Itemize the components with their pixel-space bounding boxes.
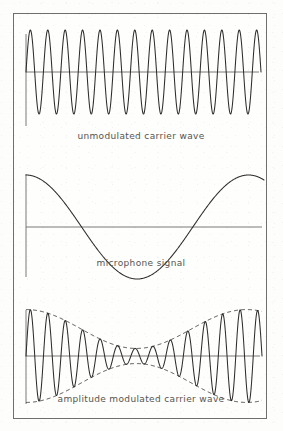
panel-microphone-signal: microphone signal <box>14 154 268 294</box>
caption-microphone-signal: microphone signal <box>14 258 268 268</box>
microphone-signal-plot <box>14 154 268 294</box>
figure-frame: unmodulated carrier wave microphone sign… <box>13 13 267 419</box>
figure-root: unmodulated carrier wave microphone sign… <box>0 0 283 431</box>
panel-unmodulated-carrier: unmodulated carrier wave <box>14 14 268 154</box>
panel-amplitude-modulated-carrier: amplitude modulated carrier wave <box>14 294 268 420</box>
caption-unmodulated-carrier: unmodulated carrier wave <box>14 131 268 141</box>
caption-amplitude-modulated-carrier: amplitude modulated carrier wave <box>14 394 268 404</box>
